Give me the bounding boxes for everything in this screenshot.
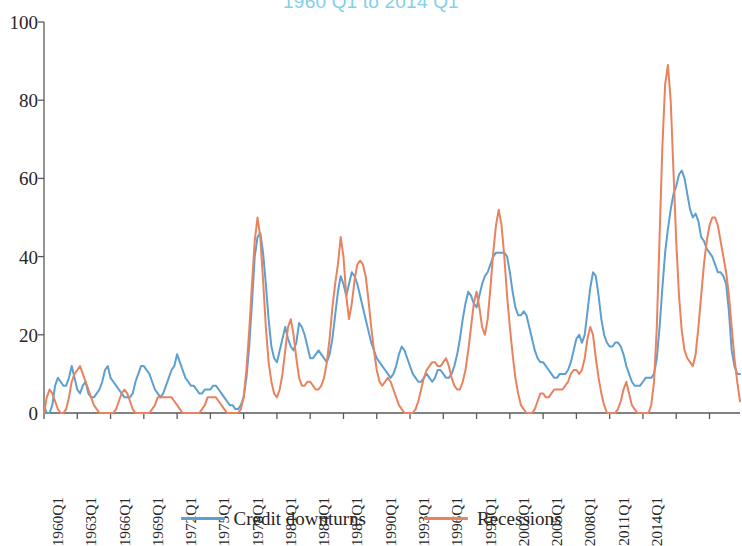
plot-area [44,22,740,413]
legend-item-credit-downturns[interactable]: Credit downturns [181,508,366,529]
chart-plot-svg [44,22,740,413]
legend-color-swatch [181,517,225,520]
series-line-recessions [44,65,740,413]
legend-item-recessions[interactable]: Recessions [424,508,561,529]
y-axis: 020406080100 [0,0,38,435]
legend-color-swatch [424,517,468,520]
y-axis-tick-label: 100 [0,13,38,32]
axis-lines [44,22,740,413]
chart-title: 1960 Q1 to 2014 Q1 [0,0,742,13]
data-series-group [44,65,740,413]
axis-ticks [38,22,709,419]
y-axis-tick-label: 60 [0,169,38,188]
chart-legend: Credit downturnsRecessions [0,508,742,529]
legend-label: Credit downturns [234,508,366,529]
series-line-credit-downturns [44,171,740,413]
y-axis-tick-label: 80 [0,91,38,110]
y-axis-tick-label: 20 [0,326,38,345]
legend-label: Recessions [477,508,561,529]
x-axis: 1960Q11963Q11966Q11969Q11972Q11975Q11978… [44,419,742,507]
y-axis-tick-label: 40 [0,248,38,267]
y-axis-tick-label: 0 [0,404,38,423]
